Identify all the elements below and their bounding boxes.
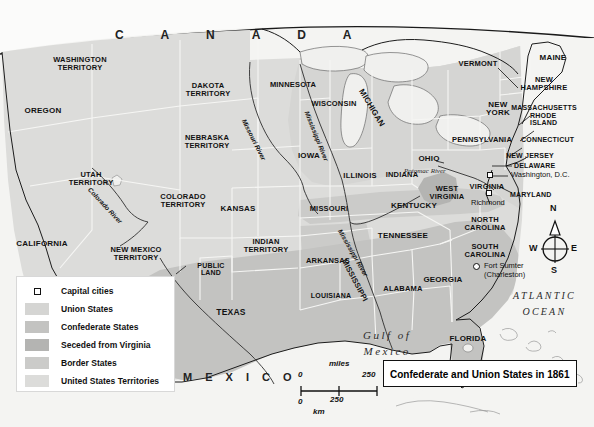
legend-item-united-states-territories: United States Territories: [25, 372, 174, 390]
iowa-label: IOWA: [288, 152, 330, 160]
legend-label: Border States: [61, 358, 117, 368]
utah-territory-label: UTAH TERRITORY: [62, 171, 120, 186]
new-mexico-territory-label: NEW MEXICO TERRITORY: [99, 246, 173, 261]
rhode-island-label: RHODE ISLAND: [530, 112, 576, 126]
west-virginia-label: WEST VIRGINIA: [423, 185, 471, 200]
public-land-label: PUBLIC LAND: [188, 262, 234, 276]
indiana-label: INDIANA: [379, 171, 425, 179]
north-carolina-label: NORTH CAROLINA: [456, 216, 514, 231]
minnesota-label: MINNESOTA: [264, 81, 322, 89]
richmond-marker: [486, 190, 492, 196]
new-hampshire-label: NEW HAMPSHIRE: [514, 76, 574, 91]
legend-label: Union States: [61, 304, 113, 314]
delaware-label: DELAWARE: [514, 162, 566, 169]
tennessee-label: TENNESSEE: [372, 232, 434, 240]
map-title: Confederate and Union States in 1861: [390, 369, 570, 380]
legend-item-union-states: Union States: [25, 300, 174, 318]
scale-bar: miles 0 250 0 250 km: [297, 359, 393, 415]
map-figure: C A N A D A M E X I C O Gulf of Mexico A…: [0, 0, 594, 427]
legend-item-border-states: Border States: [25, 354, 174, 372]
scale-km-label: km: [313, 407, 325, 416]
washington-dc-label: Washington, D.C.: [511, 170, 570, 179]
scale-ruler: [297, 383, 393, 405]
compass-south-label: S: [551, 265, 557, 275]
massachusetts-label: MASSACHUSETTS: [506, 104, 582, 111]
legend-label: United States Territories: [61, 376, 159, 386]
south-carolina-label: SOUTH CAROLINA: [456, 243, 514, 258]
legend-swatch-union: [25, 303, 49, 315]
louisiana-label: LOUISIANA: [303, 292, 359, 299]
gulf-of-mexico-label: Gulf of Mexico: [363, 328, 411, 360]
new-jersey-label: NEW JERSEY: [506, 152, 564, 159]
map-title-box: Confederate and Union States in 1861: [383, 360, 577, 387]
illinois-label: ILLINOIS: [336, 172, 384, 180]
wisconsin-label: WISCONSIN: [306, 100, 362, 108]
legend-swatch-seceded: [25, 339, 49, 351]
legend-label: Seceded from Virginia: [61, 340, 151, 350]
vermont-label: VERMONT: [455, 60, 501, 68]
legend-label: Capital cities: [61, 286, 113, 296]
scale-km-zero: 0: [298, 397, 302, 406]
colorado-territory-label: COLORADO TERRITORY: [150, 193, 216, 208]
texas-label: TEXAS: [206, 308, 256, 317]
scale-miles-label: miles: [329, 359, 349, 368]
washington-territory-label: WASHINGTON TERRITORY: [42, 56, 118, 71]
mexico-label: M E X I C O: [183, 371, 297, 383]
capital-city-marker-icon: [25, 288, 49, 295]
nebraska-territory-label: NEBRASKA TERRITORY: [172, 134, 242, 149]
dakota-territory-label: DAKOTA TERRITORY: [176, 82, 240, 97]
maryland-label: MARYLAND: [510, 191, 564, 198]
fort-sumter-label: Fort Sumter (Charleston): [484, 261, 525, 280]
legend-item-capital-cities: Capital cities: [25, 282, 174, 300]
legend-swatch-confederate: [25, 321, 49, 333]
compass-rose: N S E W: [528, 205, 582, 283]
oregon-label: OREGON: [14, 107, 72, 115]
legend-item-seceded-from-virginia: Seceded from Virginia: [25, 336, 174, 354]
kansas-label: KANSAS: [211, 205, 265, 213]
connecticut-label: CONNECTICUT: [521, 136, 587, 143]
map-legend: Capital cities Union States Confederate …: [16, 276, 175, 392]
washington-dc-marker: [487, 172, 493, 178]
richmond-label: Richmond: [471, 198, 505, 207]
compass-east-label: E: [571, 243, 577, 253]
legend-item-confederate-states: Confederate States: [25, 318, 174, 336]
scale-miles-max: 250: [362, 370, 375, 379]
compass-west-label: W: [529, 243, 538, 253]
atlantic-ocean-label: ATLANTIC OCEAN: [513, 288, 576, 320]
indian-territory-label: INDIAN TERRITORY: [236, 238, 296, 253]
fort-sumter-marker: [473, 263, 480, 270]
florida-label: FLORIDA: [444, 335, 492, 343]
legend-label: Confederate States: [61, 322, 138, 332]
canada-label: C A N A D A: [115, 28, 368, 42]
alabama-label: ALABAMA: [377, 285, 429, 293]
kentucky-label: KENTUCKY: [386, 202, 442, 210]
california-label: CALIFORNIA: [8, 240, 76, 248]
scale-km-max: 250: [330, 395, 343, 404]
missouri-label: MISSOURI: [300, 205, 358, 213]
legend-swatch-territories: [25, 375, 49, 387]
pennsylvania-label: PENNSYLVANIA: [446, 136, 518, 144]
legend-swatch-border: [25, 357, 49, 369]
ohio-label: OHIO: [410, 155, 448, 163]
scale-miles-zero: 0: [298, 370, 302, 379]
compass-north-label: N: [550, 203, 557, 213]
maine-label: MAINE: [531, 54, 575, 62]
georgia-label: GEORGIA: [418, 276, 468, 284]
